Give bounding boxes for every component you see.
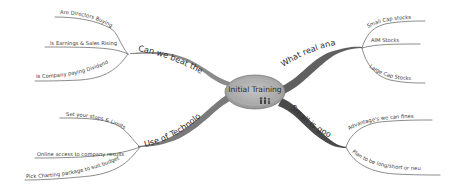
connector-line bbox=[362, 44, 420, 48]
connector-line bbox=[55, 17, 128, 54]
central-topic[interactable]: Initial Training bbox=[225, 75, 285, 109]
central-topic-label: Initial Training bbox=[228, 85, 282, 94]
mind-map-canvas: Initial Training Can we beat the pros Us… bbox=[0, 0, 458, 194]
connector-line bbox=[60, 118, 140, 147]
subtopic-label[interactable]: Online access to company results bbox=[37, 151, 125, 158]
subtopic-label[interactable]: Is Company paying Dividend bbox=[36, 59, 109, 80]
people-icon bbox=[260, 97, 270, 104]
connector-line bbox=[45, 47, 128, 54]
connector-line bbox=[346, 147, 440, 175]
subtopic-label[interactable]: AIM Stocks bbox=[371, 37, 400, 43]
subtopic-label[interactable]: Is Earnings & Sales Rising bbox=[50, 40, 117, 47]
subtopic-label[interactable]: Large Cap Stocks bbox=[368, 63, 411, 81]
subtopic-label[interactable]: Plan to be long/short or neutral bbox=[0, 0, 421, 171]
subtopic-label[interactable]: Set your stops & Limits bbox=[66, 111, 127, 130]
branch-label-small-good[interactable]: Small is good bbox=[0, 0, 333, 140]
